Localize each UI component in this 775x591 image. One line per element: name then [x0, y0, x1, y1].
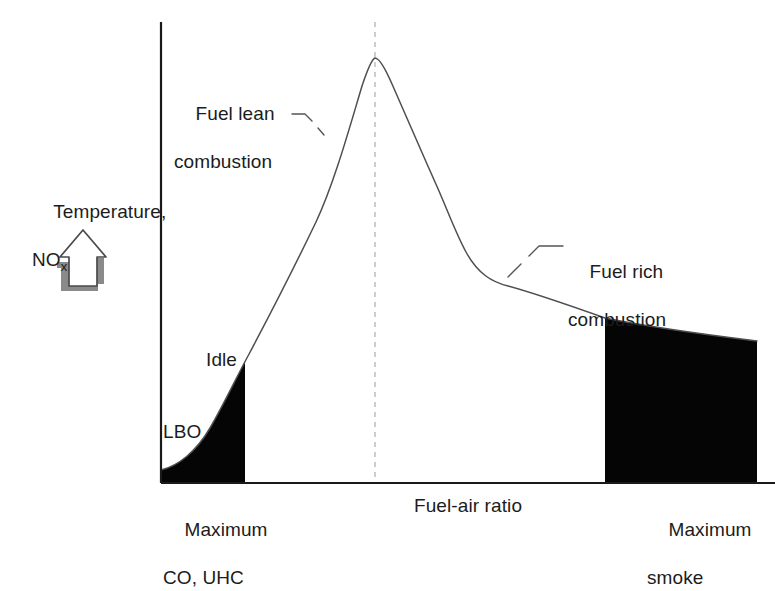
x-axis-label-max-smoke-line2: smoke [647, 566, 752, 590]
y-axis-label-line1: Temperature, [53, 201, 166, 222]
y-axis-label-nox-subscript: x [61, 259, 68, 274]
y-axis-label: Temperature, NOx [32, 176, 166, 327]
y-axis-label-nox-base: NO [32, 249, 61, 270]
annotation-fuel-rich-line1: Fuel rich [590, 261, 664, 282]
x-axis-label-max-smoke-line1: Maximum [669, 519, 752, 540]
x-axis-label-max-co-line2: CO, UHC [163, 566, 268, 590]
annotation-fuel-rich-combustion: Fuel rich combustion [568, 236, 666, 380]
x-axis-label-fuel-air-ratio: Fuel-air ratio [414, 494, 522, 518]
annotation-fuel-rich-line2: combustion [568, 308, 666, 332]
annotation-fuel-lean-line2: combustion [174, 150, 275, 174]
annotation-idle: Idle [206, 348, 237, 372]
fuel-lean-leader-line [292, 114, 312, 121]
fuel-lean-leader-tick [318, 128, 324, 135]
x-axis-label-max-co-line1: Maximum [185, 519, 268, 540]
fuel-rich-leader-tick [508, 264, 521, 277]
annotation-fuel-lean-combustion: Fuel lean combustion [174, 78, 275, 222]
y-axis-label-line2: NOx [32, 248, 166, 279]
annotation-fuel-lean-line1: Fuel lean [196, 103, 275, 124]
fuel-rich-leader-line [529, 246, 563, 256]
annotation-lbo: LBO [163, 420, 201, 444]
x-axis-label-max-smoke: Maximum smoke [647, 494, 752, 591]
x-axis-label-max-co-uhc: Maximum CO, UHC [163, 494, 268, 591]
